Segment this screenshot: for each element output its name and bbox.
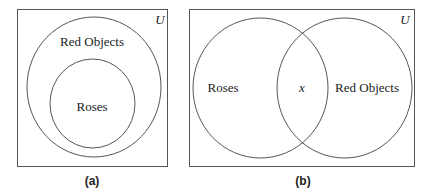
red-objects-label-a: Red Objects [60,34,124,49]
intersection-label-b: x [298,80,305,95]
roses-label-a: Roses [76,99,107,114]
venn-diagram-b: U Roses x Red Objects (b) [190,10,415,189]
venn-diagrams: U Red Objects Roses (a) U Roses x Red Ob… [0,0,428,195]
universe-label-b: U [400,12,411,27]
venn-diagram-a: U Red Objects Roses (a) [18,10,168,189]
roses-label-b: Roses [207,80,238,95]
caption-b: (b) [295,174,310,188]
universe-label-a: U [155,12,166,27]
red-objects-label-b: Red Objects [335,80,399,95]
caption-a: (a) [85,174,100,188]
